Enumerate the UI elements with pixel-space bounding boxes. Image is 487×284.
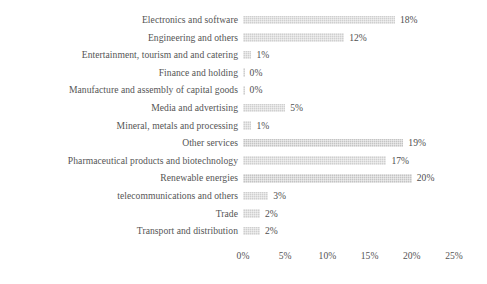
bar-track: 2% bbox=[243, 222, 487, 240]
category-label: Entertainment, tourism and and catering bbox=[82, 46, 238, 64]
category-label: telecommunications and others bbox=[117, 187, 238, 205]
bar bbox=[243, 227, 260, 236]
bar-track: 19% bbox=[243, 134, 487, 152]
x-axis-tick-label: 25% bbox=[445, 249, 463, 263]
bar-value-label: 20% bbox=[417, 169, 435, 187]
bar-track: 1% bbox=[243, 117, 487, 135]
bar-value-label: 17% bbox=[391, 152, 409, 170]
bar-value-label: 12% bbox=[349, 29, 367, 47]
bar-row: Other services19% bbox=[0, 134, 487, 152]
category-label: Mineral, metals and processing bbox=[117, 117, 238, 135]
chart-plot-area: Electronics and software18%Engineering a… bbox=[0, 11, 487, 240]
category-label: Media and advertising bbox=[151, 99, 238, 117]
category-label: Renewable energies bbox=[160, 169, 238, 187]
bar-row: Transport and distribution2% bbox=[0, 222, 487, 240]
bar-row: Trade2% bbox=[0, 205, 487, 223]
bar bbox=[243, 68, 245, 77]
bar bbox=[243, 33, 344, 42]
bar-row: Electronics and software18% bbox=[0, 11, 487, 29]
bar bbox=[243, 104, 285, 113]
bar-value-label: 5% bbox=[290, 99, 303, 117]
bar-value-label: 2% bbox=[265, 205, 278, 223]
bar-value-label: 18% bbox=[400, 11, 418, 29]
bar bbox=[243, 156, 386, 165]
category-label: Engineering and others bbox=[148, 29, 238, 47]
bar-value-label: 19% bbox=[408, 134, 426, 152]
bar-track: 17% bbox=[243, 152, 487, 170]
bar-row: Media and advertising5% bbox=[0, 99, 487, 117]
x-axis-tick-label: 15% bbox=[361, 249, 379, 263]
bar-value-label: 1% bbox=[256, 117, 269, 135]
x-axis-tick-label: 10% bbox=[319, 249, 337, 263]
bar-track: 12% bbox=[243, 29, 487, 47]
category-label: Other services bbox=[182, 134, 238, 152]
bar-track: 5% bbox=[243, 99, 487, 117]
x-axis-tick-label: 0% bbox=[237, 249, 250, 263]
bar-value-label: 0% bbox=[250, 64, 263, 82]
bar-track: 18% bbox=[243, 11, 487, 29]
bar bbox=[243, 174, 412, 183]
bar bbox=[243, 121, 251, 130]
bar-chart: Electronics and software18%Engineering a… bbox=[0, 0, 487, 284]
bar-row: Engineering and others12% bbox=[0, 29, 487, 47]
category-label: Finance and holding bbox=[159, 64, 238, 82]
category-label: Manufacture and assembly of capital good… bbox=[69, 81, 238, 99]
bar-value-label: 2% bbox=[265, 222, 278, 240]
bar-track: 1% bbox=[243, 46, 487, 64]
x-axis: 0%5%10%15%20%25% bbox=[243, 249, 487, 267]
bar bbox=[243, 139, 403, 148]
bar-row: Pharmaceutical products and biotechnolog… bbox=[0, 152, 487, 170]
category-label: Electronics and software bbox=[142, 11, 238, 29]
category-label: Trade bbox=[216, 205, 238, 223]
bar-row: Mineral, metals and processing1% bbox=[0, 117, 487, 135]
bar-track: 3% bbox=[243, 187, 487, 205]
bar-row: Entertainment, tourism and and catering1… bbox=[0, 46, 487, 64]
bar-track: 0% bbox=[243, 64, 487, 82]
bar-value-label: 0% bbox=[250, 81, 263, 99]
bar-row: Renewable energies20% bbox=[0, 169, 487, 187]
bar-track: 20% bbox=[243, 169, 487, 187]
category-label: Pharmaceutical products and biotechnolog… bbox=[68, 152, 238, 170]
x-axis-tick-label: 20% bbox=[403, 249, 421, 263]
x-axis-tick-label: 5% bbox=[279, 249, 292, 263]
bar-value-label: 3% bbox=[273, 187, 286, 205]
bar-row: telecommunications and others3% bbox=[0, 187, 487, 205]
bar-track: 0% bbox=[243, 81, 487, 99]
bar-value-label: 1% bbox=[256, 46, 269, 64]
category-label: Transport and distribution bbox=[137, 222, 238, 240]
bar bbox=[243, 192, 268, 201]
bar-row: Manufacture and assembly of capital good… bbox=[0, 81, 487, 99]
bar-row: Finance and holding0% bbox=[0, 64, 487, 82]
bar bbox=[243, 86, 245, 95]
bar bbox=[243, 16, 395, 25]
bar bbox=[243, 209, 260, 218]
bar-track: 2% bbox=[243, 205, 487, 223]
bar bbox=[243, 51, 251, 60]
